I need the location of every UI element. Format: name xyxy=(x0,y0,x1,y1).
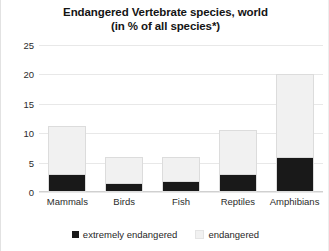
bar-segment-extremely-endangered[interactable] xyxy=(48,174,86,192)
bar-segment-endangered[interactable] xyxy=(105,157,143,183)
bar-segment-endangered[interactable] xyxy=(276,74,314,156)
plot-area: 0510152025 xyxy=(39,45,323,192)
y-axis-tick-label: 10 xyxy=(0,128,34,139)
bar-segment-extremely-endangered[interactable] xyxy=(219,174,257,192)
bar-slot xyxy=(39,45,96,192)
bar-segment-extremely-endangered[interactable] xyxy=(276,157,314,192)
legend-label: endangered xyxy=(208,229,259,240)
y-axis-tick-label: 15 xyxy=(0,98,34,109)
bar-stack[interactable] xyxy=(162,157,200,192)
chart-container: Endangered Vertebrate species, world (in… xyxy=(0,0,329,251)
chart-legend: extremely endangeredendangered xyxy=(1,229,329,240)
bar-slot xyxy=(209,45,266,192)
legend-item[interactable]: extremely endangered xyxy=(72,229,178,240)
legend-item[interactable]: endangered xyxy=(195,229,259,240)
bar-stack[interactable] xyxy=(276,74,314,192)
bar-stack[interactable] xyxy=(48,126,86,192)
bar-segment-endangered[interactable] xyxy=(162,157,200,182)
bar-slot xyxy=(96,45,153,192)
gridline xyxy=(39,192,323,193)
bar-slot xyxy=(153,45,210,192)
x-axis-tick-label: Fish xyxy=(153,196,210,207)
x-axis-tick-label: Mammals xyxy=(39,196,96,207)
bar-slot xyxy=(266,45,323,192)
bar-stack[interactable] xyxy=(105,157,143,192)
y-axis-tick-label: 0 xyxy=(0,187,34,198)
y-axis-tick-label: 5 xyxy=(0,157,34,168)
chart-title: Endangered Vertebrate species, world xyxy=(1,5,329,19)
bar-group xyxy=(39,45,323,192)
bar-segment-endangered[interactable] xyxy=(48,126,86,174)
light-gray-square-icon xyxy=(195,230,204,239)
x-axis-labels: MammalsBirdsFishReptilesAmphibians xyxy=(39,196,323,207)
black-square-icon xyxy=(72,231,79,238)
chart-title-block: Endangered Vertebrate species, world (in… xyxy=(1,5,329,33)
bar-segment-extremely-endangered[interactable] xyxy=(162,181,200,192)
bar-segment-endangered[interactable] xyxy=(219,130,257,174)
y-axis-tick-label: 20 xyxy=(0,69,34,80)
x-axis-tick-label: Birds xyxy=(96,196,153,207)
x-axis-tick-label: Reptiles xyxy=(209,196,266,207)
x-axis-tick-label: Amphibians xyxy=(266,196,323,207)
bar-stack[interactable] xyxy=(219,130,257,192)
bar-segment-extremely-endangered[interactable] xyxy=(105,183,143,192)
y-axis-tick-label: 25 xyxy=(0,40,34,51)
chart-subtitle: (in % of all species*) xyxy=(1,19,329,33)
legend-label: extremely endangered xyxy=(83,229,178,240)
